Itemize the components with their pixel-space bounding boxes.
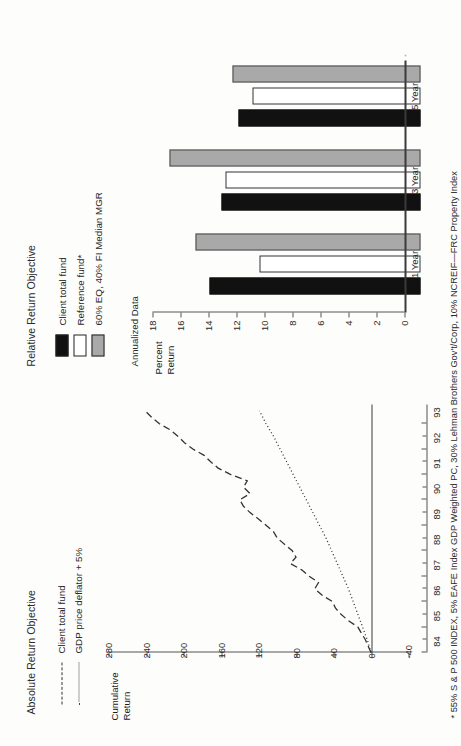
x-minor-tick — [422, 587, 426, 588]
dotted-line-icon — [73, 662, 83, 704]
relative-chart-subtitle: Annualized Data — [128, 296, 139, 366]
x-minor-tick — [422, 537, 426, 538]
x-tick — [421, 549, 426, 550]
absolute-chart-title: Absolute Return Objective — [24, 590, 36, 714]
x-tick — [421, 473, 426, 474]
x-tick — [421, 651, 426, 652]
bar — [195, 234, 420, 251]
x-minor-tick — [422, 435, 426, 436]
bar — [238, 110, 420, 127]
y-tick-label: 8 — [287, 320, 298, 325]
y-tick-label: 4 — [343, 320, 354, 325]
x-tick — [421, 498, 426, 499]
bar — [225, 172, 420, 189]
black-swatch-icon — [55, 334, 68, 356]
x-tick-label: 93 — [430, 407, 441, 417]
absolute-return-chart: Absolute Return Objective Client total f… — [24, 390, 442, 720]
scanned-page: Absolute Return Objective Client total f… — [0, 0, 461, 746]
y-tick — [264, 312, 265, 317]
y-tick — [236, 312, 237, 317]
white-swatch-icon — [73, 334, 86, 356]
y-tick — [404, 312, 405, 317]
legend-label: Client total fund — [55, 585, 66, 653]
x-tick-label: 92 — [430, 432, 441, 442]
footnote-text: * 55% S & P 500 INDEX, 5% EAFE Index GDP… — [448, 171, 458, 718]
relative-chart-title: Relative Return Objective — [24, 244, 36, 366]
absolute-y-axis-label: Cumulative Return — [108, 658, 131, 720]
x-tick — [421, 524, 426, 525]
x-minor-tick — [422, 613, 426, 614]
x-tick — [421, 600, 426, 601]
y-tick-label: 6 — [315, 320, 326, 325]
bar — [259, 256, 420, 273]
absolute-series-plot — [108, 404, 408, 652]
relative-chart-legend: Client total fund Reference fund* 60% EQ… — [52, 192, 106, 356]
y-tick-label: 0 — [399, 320, 410, 325]
legend-item: 60% EQ, 40% FI Median MGR — [88, 192, 106, 356]
y-tick-label: 10 — [259, 320, 270, 330]
y-tick-label: 14 — [203, 320, 214, 330]
x-tick — [421, 575, 426, 576]
x-minor-tick — [422, 638, 426, 639]
dotted-series-line — [259, 410, 371, 652]
figure-stage: Absolute Return Objective Client total f… — [0, 0, 461, 746]
legend-label: GDP price deflator + 5% — [72, 547, 83, 653]
absolute-plot-area: 28024020016012080400-40 8485868788899091… — [108, 404, 408, 652]
category-label: 3 Year — [408, 166, 419, 193]
legend-item: Client total fund — [52, 547, 69, 704]
y-tick — [180, 312, 181, 317]
x-tick-label: 86 — [430, 585, 441, 595]
legend-item: Client total fund — [52, 192, 70, 356]
y-tick — [152, 312, 153, 317]
x-tick-label: 85 — [430, 610, 441, 620]
relative-y-axis-label: Percent Return — [152, 341, 175, 374]
legend-item: GDP price deflator + 5% — [69, 547, 86, 704]
y-tick — [376, 312, 377, 317]
bar — [169, 150, 420, 167]
category-label: 5 Year — [408, 82, 419, 109]
legend-label: Reference fund* — [74, 254, 85, 325]
y-tick — [348, 312, 349, 317]
x-tick-label: 91 — [430, 458, 441, 468]
x-minor-tick — [422, 486, 426, 487]
absolute-chart-legend: Client total fund GDP price deflator + 5… — [52, 547, 86, 704]
x-tick-label: 87 — [430, 559, 441, 569]
x-tick-label: 89 — [430, 509, 441, 519]
legend-label: Client total fund — [56, 257, 67, 325]
y-tick-label: 12 — [231, 320, 242, 330]
x-tick — [421, 626, 426, 627]
relative-return-chart: Relative Return Objective Client total f… — [24, 24, 444, 374]
dashed-series-line — [145, 410, 371, 652]
x-axis-line — [426, 404, 427, 652]
x-tick-label: 90 — [430, 483, 441, 493]
x-minor-tick — [422, 460, 426, 461]
bar — [209, 278, 420, 295]
x-minor-tick — [422, 562, 426, 563]
y-tick-label: 2 — [371, 320, 382, 325]
y-tick — [320, 312, 321, 317]
relative-plot-area: 181614121086420 1 Year3 Year5 Year — [152, 60, 420, 312]
bar — [252, 88, 420, 105]
x-tick-label: 88 — [430, 534, 441, 544]
y-tick-label: 18 — [147, 320, 158, 330]
y-tick — [208, 312, 209, 317]
y-tick-label: 16 — [175, 320, 186, 330]
category-label: 1 Year — [408, 250, 419, 277]
bar — [232, 66, 420, 83]
x-tick-label: 84 — [430, 636, 441, 646]
legend-item: Reference fund* — [70, 192, 88, 356]
gray-swatch-icon — [91, 334, 104, 356]
y-tick — [292, 312, 293, 317]
x-minor-tick — [422, 511, 426, 512]
scan-artifact — [404, 54, 406, 56]
x-tick — [421, 422, 426, 423]
bar — [221, 194, 420, 211]
x-axis-line — [404, 60, 406, 312]
x-tick — [421, 448, 426, 449]
legend-label: 60% EQ, 40% FI Median MGR — [92, 192, 103, 325]
y-axis-line — [152, 311, 404, 312]
dashed-line-icon — [56, 662, 66, 704]
